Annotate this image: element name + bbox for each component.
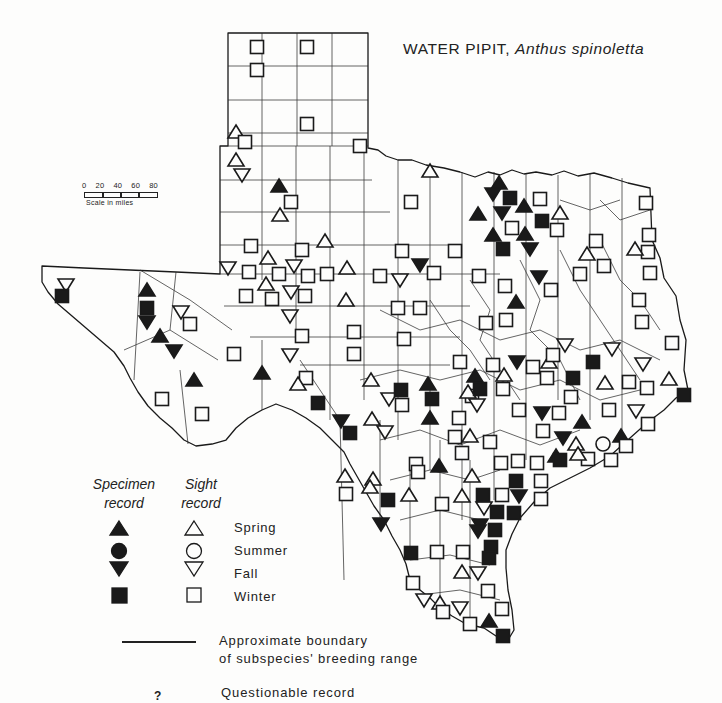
specimen-record-header: Specimen record xyxy=(74,475,174,513)
sight-square-icon xyxy=(196,408,209,421)
sight-triangle-down-icon xyxy=(628,405,644,418)
sight-square-icon xyxy=(496,603,509,616)
specimen-triangle-down-icon xyxy=(485,188,501,201)
specimen-square-icon xyxy=(426,393,439,406)
scale-label: Scale in miles xyxy=(86,199,162,206)
specimen-square-icon xyxy=(483,552,496,565)
sight-triangle-down-icon xyxy=(476,502,492,515)
specimen-triangle-up-icon xyxy=(254,366,270,379)
sight-square-icon xyxy=(299,290,312,303)
sight-triangle-up-icon xyxy=(568,437,584,450)
boundary-text-line: Approximate boundary xyxy=(219,632,418,650)
sight-triangle-up-icon xyxy=(454,565,470,578)
specimen-triangle-down-icon xyxy=(139,316,155,329)
sight-square-icon xyxy=(482,585,495,598)
sight-triangle-up-icon xyxy=(363,373,379,386)
common-name: WATER PIPIT, xyxy=(403,40,510,57)
specimen-square-icon xyxy=(477,489,490,502)
specimen-triangle-down-icon xyxy=(470,525,486,538)
sight-triangle-up-icon xyxy=(597,376,613,389)
legend-row-spring: Spring xyxy=(0,520,400,538)
sight-square-icon xyxy=(285,196,298,209)
sight-triangle-down-icon xyxy=(604,343,620,356)
sight-triangle-down-icon xyxy=(452,602,468,615)
sight-square-icon xyxy=(398,333,411,346)
sight-square-icon xyxy=(354,140,367,153)
specimen-square-icon xyxy=(141,302,154,315)
sight-square-icon xyxy=(251,64,264,77)
sight-square-icon xyxy=(641,382,654,395)
specimen-triangle-up-icon xyxy=(574,415,590,428)
sight-square-icon xyxy=(405,196,418,209)
specimen-square-icon xyxy=(489,524,502,537)
sight-square-icon xyxy=(296,244,309,257)
sight-square-icon xyxy=(603,404,616,417)
sight-square-icon xyxy=(392,302,405,315)
sight-square-icon xyxy=(457,546,470,559)
specimen-triangle-up-icon xyxy=(481,614,497,627)
sight-square-icon xyxy=(296,330,309,343)
specimen-triangle-up-icon xyxy=(422,411,438,424)
sight-square-icon xyxy=(537,425,550,438)
sight-square-icon xyxy=(497,383,510,396)
sight-triangle-down-icon xyxy=(283,286,299,299)
legend-row-fall: Fall xyxy=(0,566,400,584)
specimen-triangle-up-icon xyxy=(186,373,202,386)
header-line: record xyxy=(166,494,236,513)
sight-square-icon xyxy=(605,454,618,467)
questionable-record-label: Questionable record xyxy=(221,685,355,700)
specimen-triangle-up-icon xyxy=(517,227,533,240)
specimen-square-icon xyxy=(504,192,517,205)
legend-label: Winter xyxy=(234,589,276,604)
map-title: WATER PIPIT, Anthus spinoletta xyxy=(403,40,644,58)
sight-square-icon xyxy=(527,361,540,374)
specimen-square-icon xyxy=(382,494,395,507)
sight-triangle-up-icon xyxy=(272,208,288,221)
sight-square-icon xyxy=(396,245,409,258)
sight-square-icon xyxy=(499,280,512,293)
sight-square-icon xyxy=(535,475,548,488)
sight-triangle-up-icon xyxy=(317,234,333,247)
sight-square-icon xyxy=(512,455,525,468)
sight-square-icon xyxy=(496,489,509,502)
scale-ticks: 0 20 40 60 80 xyxy=(82,181,158,190)
sight-square-icon xyxy=(666,337,679,350)
specimen-square-icon xyxy=(491,506,504,519)
sight-square-icon xyxy=(273,268,286,281)
sight-triangle-down-icon xyxy=(635,358,651,371)
sight-square-icon xyxy=(321,268,334,281)
specimen-triangle-up-icon xyxy=(467,369,483,382)
specimen-triangle-down-icon xyxy=(531,271,547,284)
specimen-square-icon xyxy=(56,290,69,303)
sight-square-icon xyxy=(473,270,486,283)
specimen-triangle-down-icon xyxy=(166,345,182,358)
specimen-square-icon xyxy=(554,454,567,467)
sight-triangle-down-icon xyxy=(392,274,408,287)
specimen-triangle-down-icon xyxy=(511,490,527,503)
specimen-triangle-up-icon xyxy=(431,459,447,472)
sight-square-icon xyxy=(396,399,409,412)
specimen-triangle-down-icon xyxy=(412,259,428,272)
sight-triangle-down-icon xyxy=(469,399,485,412)
sight-square-icon xyxy=(251,41,264,54)
sight-triangle-up-icon xyxy=(364,412,380,425)
specimen-triangle-up-icon xyxy=(420,377,436,390)
sight-triangle-up-icon xyxy=(339,261,355,274)
specimen-triangle-up-icon xyxy=(491,176,507,189)
sight-square-icon xyxy=(374,270,387,283)
specimen-square-icon xyxy=(678,389,691,402)
sight-square-icon xyxy=(464,618,477,631)
sight-square-icon xyxy=(598,260,611,273)
sight-square-icon xyxy=(565,391,578,404)
specimen-square-icon xyxy=(497,630,510,643)
sight-square-icon xyxy=(243,266,256,279)
sight-record-header: Sight record xyxy=(166,475,236,513)
legend-label: Fall xyxy=(234,566,258,581)
scale-tick: 80 xyxy=(149,181,158,190)
scale-tick: 60 xyxy=(131,181,140,190)
sight-square-icon xyxy=(437,606,450,619)
specimen-square-icon xyxy=(536,215,549,228)
sight-triangle-up-icon xyxy=(579,247,595,260)
sight-triangle-up-icon xyxy=(228,153,244,166)
specimen-square-icon xyxy=(497,243,510,256)
